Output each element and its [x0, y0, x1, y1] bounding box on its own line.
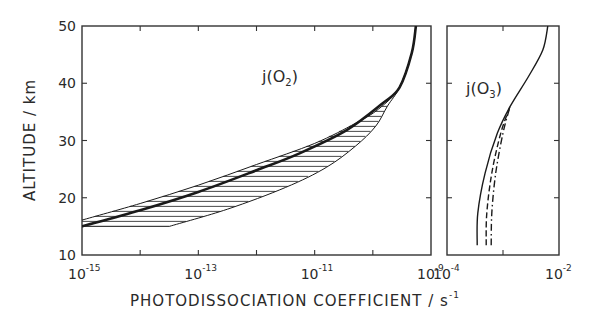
panel-j-o3: 10-410-2 j(O3): [433, 26, 572, 282]
panel-j-o3-frame: [447, 26, 559, 255]
y-tick-label: 40: [58, 75, 76, 91]
series-jo3-solid: [477, 26, 548, 245]
x-tick-label: 10-2: [545, 263, 572, 282]
x-tick-label: 10-15: [68, 263, 101, 282]
y-tick-label: 10: [58, 247, 76, 263]
series-jo3-dash-dot: [491, 107, 510, 246]
photodissociation-chart: ALTITUDE / km 1020304050 10-1510-1310-11…: [0, 0, 597, 326]
panel-j-o3-label: j(O3): [465, 79, 502, 100]
x-tick-label: 10-4: [433, 263, 460, 282]
x-tick-label: 10-11: [301, 263, 334, 282]
panel-j-o3-ticks: [447, 26, 559, 255]
x-axis-title: PHOTODISSOCIATION COEFFICIENT / s-1: [130, 290, 460, 310]
panel-j-o3-x-tick-labels: 10-410-2: [433, 263, 572, 282]
y-tick-label: 20: [58, 190, 76, 206]
y-axis-title: ALTITUDE / km: [21, 79, 39, 201]
uncertainty-hatch: [82, 106, 387, 226]
panel-j-o2-frame: [82, 26, 431, 255]
panel-j-o2-x-tick-labels: 10-1510-1310-1110-9: [68, 263, 444, 282]
series-jo3-dashed: [486, 107, 510, 246]
panel-j-o2-label: j(O2): [261, 67, 298, 88]
panel-j-o2-ticks: [82, 26, 431, 255]
y-tick-label: 30: [58, 133, 76, 149]
y-tick-label: 50: [58, 18, 76, 34]
panel-j-o2: 10-1510-1310-1110-9 j(O2): [68, 26, 444, 282]
x-tick-label: 10-13: [184, 263, 217, 282]
y-tick-labels: 1020304050: [58, 18, 76, 263]
panel-j-o3-curves: [477, 26, 548, 245]
